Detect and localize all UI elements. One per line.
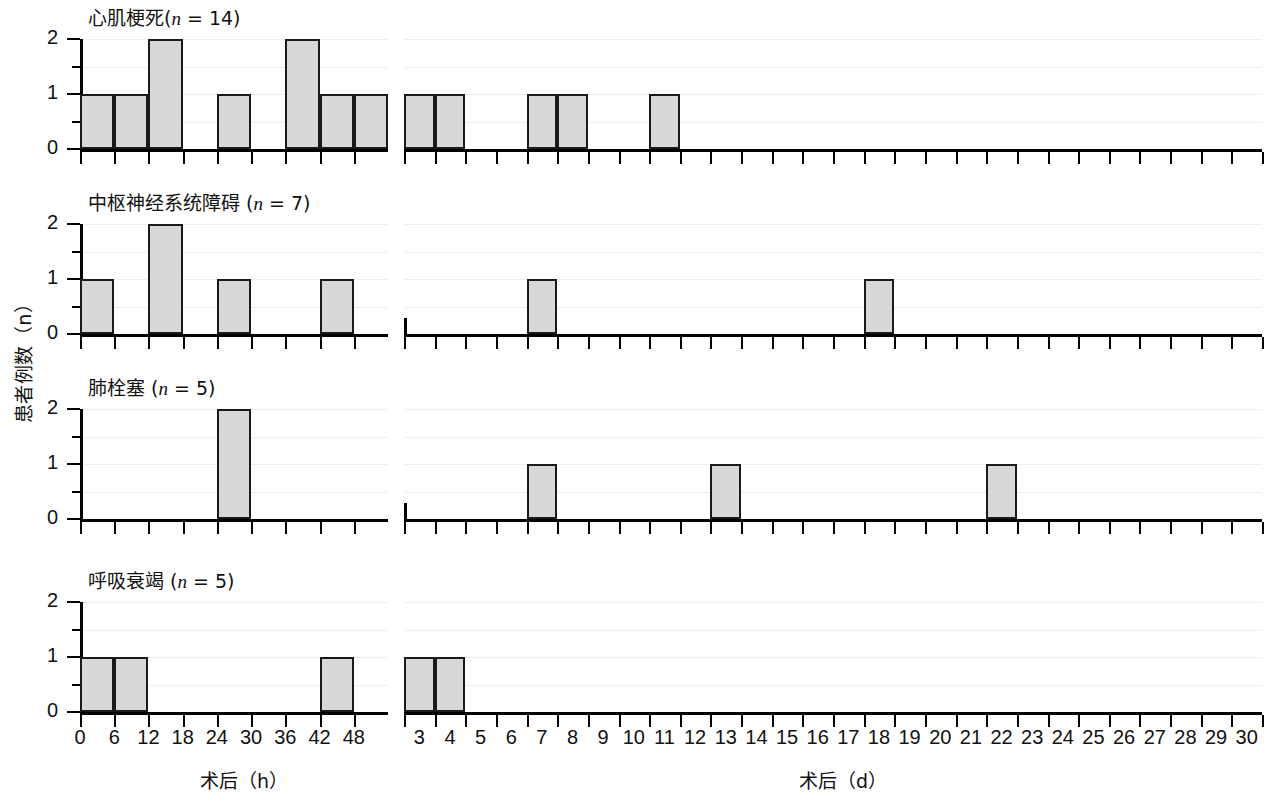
x-tick-days xyxy=(1078,715,1080,727)
bar xyxy=(527,464,558,519)
x-tick-days xyxy=(1201,152,1203,164)
x-axis-caption-days: 术后（d） xyxy=(799,766,887,793)
x-tick-label-days: 6 xyxy=(506,726,517,749)
x-tick-days xyxy=(925,152,927,164)
x-tick-days xyxy=(649,715,651,727)
bar xyxy=(217,94,251,149)
x-tick-days xyxy=(772,715,774,727)
gridline xyxy=(404,39,1262,40)
bar xyxy=(320,94,354,149)
bar xyxy=(148,39,182,149)
gridline xyxy=(80,252,388,253)
x-tick-days xyxy=(527,337,529,349)
bar xyxy=(986,464,1017,519)
x-tick-hours xyxy=(148,522,150,534)
x-tick-hours xyxy=(217,522,219,534)
x-tick-days xyxy=(1262,152,1264,164)
x-tick-days xyxy=(1262,337,1264,349)
gridline xyxy=(404,602,1262,603)
y-tick xyxy=(67,711,80,713)
x-tick-hours xyxy=(251,337,253,349)
x-tick-days xyxy=(496,715,498,727)
x-tick-days xyxy=(496,152,498,164)
x-tick-days xyxy=(802,152,804,164)
x-tick-days xyxy=(465,715,467,727)
x-axis-line-hours xyxy=(80,149,388,152)
x-tick-days xyxy=(802,715,804,727)
y-tick xyxy=(72,66,80,68)
x-tick-days xyxy=(772,152,774,164)
x-tick-hours xyxy=(148,337,150,349)
x-tick-days xyxy=(619,522,621,534)
x-tick-days xyxy=(925,715,927,727)
x-tick-days xyxy=(710,715,712,727)
x-tick-days xyxy=(925,522,927,534)
x-tick-days xyxy=(1231,522,1233,534)
x-tick-days xyxy=(1139,337,1141,349)
x-tick-days xyxy=(465,152,467,164)
gridline xyxy=(404,630,1262,631)
x-tick-days xyxy=(741,152,743,164)
gridline xyxy=(404,252,1262,253)
x-tick-days xyxy=(680,337,682,349)
gridline xyxy=(404,67,1262,68)
bar xyxy=(404,94,435,149)
x-tick-days xyxy=(1109,715,1111,727)
x-tick-label-days: 26 xyxy=(1113,726,1135,749)
y-tick xyxy=(72,684,80,686)
x-axis-line-hours xyxy=(80,334,388,337)
x-tick-label-days: 29 xyxy=(1205,726,1227,749)
x-tick-days xyxy=(1139,152,1141,164)
y-tick-label: 1 xyxy=(32,81,58,104)
x-tick-days xyxy=(986,152,988,164)
y-tick xyxy=(72,436,80,438)
x-tick-days xyxy=(557,715,559,727)
bar xyxy=(527,279,558,334)
x-tick-hours xyxy=(183,522,185,534)
x-tick-days xyxy=(435,715,437,727)
y-tick xyxy=(67,333,80,335)
x-tick-days xyxy=(435,522,437,534)
y-tick-label: 1 xyxy=(32,266,58,289)
x-tick-days xyxy=(894,152,896,164)
x-tick-days xyxy=(710,522,712,534)
x-tick-days xyxy=(772,522,774,534)
y-tick-label: 1 xyxy=(32,451,58,474)
bar xyxy=(114,657,148,712)
x-tick-label-days: 8 xyxy=(567,726,578,749)
gridline xyxy=(404,657,1262,658)
x-tick-days xyxy=(1109,152,1111,164)
x-tick-hours xyxy=(320,337,322,349)
x-tick-label-days: 17 xyxy=(837,726,859,749)
x-tick-label-days: 23 xyxy=(1021,726,1043,749)
y-tick-label: 2 xyxy=(32,26,58,49)
gridline xyxy=(80,39,388,40)
x-tick-label-hours: 36 xyxy=(274,726,296,749)
x-tick-days xyxy=(772,337,774,349)
x-tick-label-hours: 12 xyxy=(137,726,159,749)
y-tick-label: 1 xyxy=(32,644,58,667)
x-tick-days xyxy=(1231,715,1233,727)
gridline xyxy=(80,630,388,631)
x-tick-hours xyxy=(285,152,287,164)
x-tick-days xyxy=(588,152,590,164)
y-tick xyxy=(67,278,80,280)
x-tick-days xyxy=(1231,337,1233,349)
x-tick-label-hours: 42 xyxy=(308,726,330,749)
bar xyxy=(864,279,895,334)
bar xyxy=(557,94,588,149)
panel-title: 中枢神经系统障碍 (n = 7) xyxy=(88,188,310,215)
x-tick-days xyxy=(680,715,682,727)
bar xyxy=(148,224,182,334)
x-tick-label-days: 10 xyxy=(623,726,645,749)
x-tick-hours xyxy=(320,152,322,164)
x-tick-days xyxy=(1139,715,1141,727)
x-tick-hours xyxy=(80,337,82,349)
x-tick-days xyxy=(710,152,712,164)
x-tick-hours xyxy=(285,522,287,534)
x-tick-hours xyxy=(114,337,116,349)
y-tick-label: 2 xyxy=(32,396,58,419)
x-tick-hours xyxy=(285,337,287,349)
x-tick-days xyxy=(1048,337,1050,349)
y-tick-label: 0 xyxy=(32,506,58,529)
